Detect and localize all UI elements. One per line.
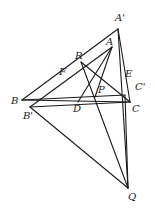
segment-B-C1: [22, 95, 125, 100]
label-C: C: [132, 103, 140, 114]
label-B: B: [10, 95, 18, 106]
label-B-prime: B': [22, 110, 33, 121]
label-A-prime: A': [114, 12, 125, 23]
label-E: E: [124, 68, 133, 79]
label-A: A: [105, 36, 113, 47]
label-R: R: [74, 50, 83, 61]
geometry-diagram: A' A R F B B' P E C' C D Q: [0, 0, 155, 214]
label-C-prime: C': [135, 81, 145, 92]
label-P: P: [97, 84, 105, 95]
label-D: D: [72, 103, 81, 114]
label-F: F: [58, 66, 67, 77]
label-Q: Q: [128, 191, 136, 202]
